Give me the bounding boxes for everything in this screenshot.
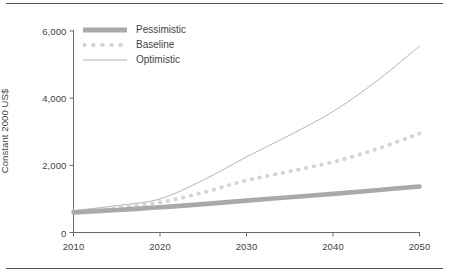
dotted-line-swatch-icon <box>83 40 127 50</box>
y-axis-title: Constant 2000 US$ <box>0 89 10 174</box>
x-axis-ticks <box>74 233 420 237</box>
y-axis-tick-label: 6,000 <box>42 26 66 37</box>
y-axis-ticks <box>70 31 74 233</box>
legend-label-optimistic: Optimistic <box>136 55 180 65</box>
series-line-optimistic <box>74 46 420 211</box>
legend-item-baseline[interactable]: Baseline <box>83 37 186 52</box>
legend-label-baseline: Baseline <box>136 40 174 50</box>
y-axis-tick-label: 4,000 <box>42 93 66 104</box>
x-axis-tick-label: 2050 <box>409 241 431 252</box>
x-axis-tick-label: 2040 <box>322 241 344 252</box>
chart-figure: Constant 2000 US$ 6,0004,0002,0000 20102… <box>0 0 449 279</box>
thin-line-swatch-icon <box>83 55 127 65</box>
y-axis-tick-label: 2,000 <box>42 160 66 171</box>
x-axis-tick-label: 2020 <box>149 241 171 252</box>
thick-line-swatch-icon <box>83 25 127 35</box>
legend-item-pessimistic[interactable]: Pessimistic <box>83 22 186 37</box>
series-layer <box>74 46 420 212</box>
line-chart-plot <box>0 0 449 279</box>
x-axis-tick-label: 2010 <box>63 241 85 252</box>
legend-label-pessimistic: Pessimistic <box>136 25 186 35</box>
series-line-pessimistic <box>74 186 420 212</box>
legend-item-optimistic[interactable]: Optimistic <box>83 52 186 67</box>
x-axis-tick-label: 2030 <box>236 241 258 252</box>
y-axis-tick-label: 0 <box>61 227 66 238</box>
chart-legend: Pessimistic Baseline Optimistic <box>83 22 186 67</box>
